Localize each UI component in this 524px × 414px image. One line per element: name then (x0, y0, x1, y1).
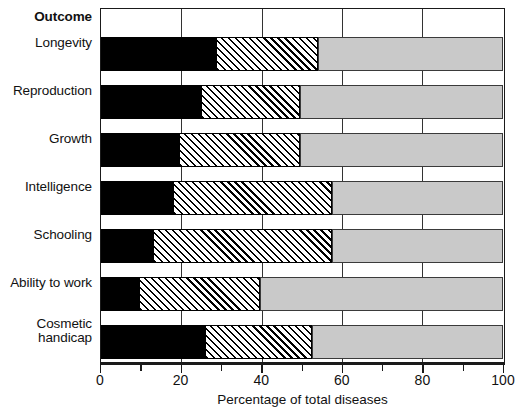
x-tick-minor (302, 365, 303, 371)
plot-inner (101, 9, 504, 362)
bar-segment (173, 181, 332, 215)
bar-segment (332, 229, 503, 263)
category-label-schooling: Schooling (34, 228, 92, 242)
x-tick-minor (382, 365, 383, 371)
bar-row (101, 85, 504, 119)
axis-header-label: Outcome (34, 10, 92, 24)
x-tick-minor (140, 365, 141, 371)
bar-segment (312, 325, 503, 359)
category-label-ability-to-work: Ability to work (10, 276, 92, 290)
x-tick-label: 60 (334, 372, 350, 388)
x-axis (100, 363, 505, 365)
category-label-growth: Growth (49, 132, 92, 146)
bar-segment (101, 37, 216, 71)
category-label-cosmetic-handicap: Cosmetic handicap (37, 317, 92, 345)
x-tick-minor (221, 365, 222, 371)
stacked-bar-chart: Outcome Longevity Reproduction Growth In… (0, 0, 524, 414)
bar-row (101, 229, 504, 263)
bar-segment (101, 85, 201, 119)
bar-segment (101, 133, 179, 167)
bar-segment (300, 133, 503, 167)
bar-row (101, 277, 504, 311)
bar-segment (101, 325, 205, 359)
x-tick-minor (463, 365, 464, 371)
bar-segment (300, 85, 503, 119)
bar-segment (101, 229, 153, 263)
bar-segment (205, 325, 311, 359)
category-label-longevity: Longevity (35, 36, 92, 50)
bar-segment (318, 37, 503, 71)
bar-segment (201, 85, 299, 119)
x-tick-label: 0 (96, 372, 104, 388)
x-axis-title: Percentage of total diseases (100, 392, 505, 407)
bar-row (101, 37, 504, 71)
bar-segment (179, 133, 300, 167)
bar-segment (153, 229, 332, 263)
bar-row (101, 133, 504, 167)
bar-segment (139, 277, 260, 311)
category-label-reproduction: Reproduction (13, 84, 92, 98)
x-tick-label: 80 (415, 372, 431, 388)
category-label-intelligence: Intelligence (25, 180, 92, 194)
bar-row (101, 325, 504, 359)
bar-segment (332, 181, 503, 215)
bar-segment (260, 277, 503, 311)
x-tick-label: 40 (253, 372, 269, 388)
bar-row (101, 181, 504, 215)
bar-segment (216, 37, 318, 71)
bar-segment (101, 277, 139, 311)
x-tick-label: 100 (491, 372, 514, 388)
plot-area (100, 8, 505, 363)
x-tick-label: 20 (173, 372, 189, 388)
category-label-column: Outcome Longevity Reproduction Growth In… (0, 0, 96, 414)
bar-segment (101, 181, 173, 215)
